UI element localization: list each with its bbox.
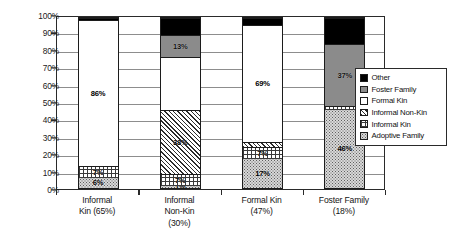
x-axis-tick-label: InformalKin (65%) [56, 195, 138, 218]
legend-item[interactable]: Informal Kin [360, 118, 443, 130]
legend-item[interactable]: Informal Non-Kin [360, 107, 443, 119]
bar-segment[interactable]: 69% [243, 25, 282, 142]
legend-item-label: Informal Kin [372, 120, 411, 129]
bar-segment-value-label: 7% [257, 150, 268, 158]
bar-segment-value-label: 1% [175, 186, 186, 188]
x-axis-tick-label-line: Informal [138, 195, 220, 206]
x-axis-tick-label: InformalNon-Kin(30%) [138, 195, 220, 229]
y-axis-tick-mark [51, 172, 56, 173]
y-axis-tick-mark [51, 68, 56, 69]
legend-item-label: Foster Family [372, 85, 417, 94]
bar-stack: 17%7%69% [242, 17, 283, 189]
bar-column[interactable]: 6%7%86% [78, 17, 119, 189]
legend-item[interactable]: Adoptive Family [360, 130, 443, 142]
bar-column[interactable]: 1%7%38%13% [160, 17, 201, 189]
bar-column[interactable]: 17%7%69% [242, 17, 283, 189]
bar-segment-value-label: 13% [173, 43, 188, 51]
bar-segment[interactable] [161, 57, 200, 110]
bar-segment[interactable] [243, 142, 282, 147]
x-axis-tick-label-line: Non-Kin [138, 206, 220, 217]
bar-segment[interactable]: 86% [79, 20, 118, 166]
bar-segment-value-label: 37% [338, 72, 353, 80]
bar-segment-value-label: 7% [175, 177, 186, 185]
legend-item[interactable]: Foster Family [360, 84, 443, 96]
bar-segment[interactable] [243, 18, 282, 25]
x-axis-tick-label: Formal Kin(47%) [221, 195, 303, 218]
bar-segment[interactable]: 1% [161, 186, 200, 188]
bar-stack: 1%7%38%13% [160, 17, 201, 189]
bar-segment[interactable]: 38% [161, 110, 200, 175]
plot-area: 6%7%86%1%7%38%13%17%7%69%46%37% [56, 16, 385, 190]
bar-stack: 6%7%86% [78, 17, 119, 189]
bar-segment-value-label: 7% [93, 169, 104, 177]
bar-segment-value-label: 6% [93, 179, 104, 187]
bar-segment[interactable]: 17% [243, 159, 282, 188]
x-axis-tick-label-line: (30%) [138, 218, 220, 229]
legend-item-label: Informal Non-Kin [372, 108, 427, 117]
bars-layer: 6%7%86%1%7%38%13%17%7%69%46%37% [57, 17, 384, 189]
x-axis-tick-label-line: (47%) [221, 206, 303, 217]
x-axis-tick-mark [385, 190, 386, 195]
bar-segment[interactable]: 7% [243, 147, 282, 159]
x-axis-tick-label-line: (18%) [303, 206, 385, 217]
x-axis-tick-label-line: Informal [56, 195, 138, 206]
bar-segment-value-label: 69% [255, 80, 270, 88]
y-axis-tick-mark [51, 120, 56, 121]
bar-segment[interactable]: 6% [79, 178, 118, 188]
legend-item[interactable]: Formal Kin [360, 95, 443, 107]
bar-segment-value-label: 46% [338, 145, 353, 153]
x-axis-tick-label-line: Foster Family [303, 195, 385, 206]
y-axis-tick-mark [51, 85, 56, 86]
legend-item[interactable]: Other [360, 72, 443, 84]
x-axis-tick-label-line: Formal Kin [221, 195, 303, 206]
bar-segment-value-label: 38% [173, 139, 188, 147]
legend-item-label: Adoptive Family [372, 131, 424, 140]
bar-segment-value-label: 86% [91, 90, 106, 98]
y-axis-tick-mark [51, 15, 56, 16]
bar-segment[interactable]: 7% [161, 174, 200, 186]
y-axis-tick-mark [51, 50, 56, 51]
bar-segment[interactable] [161, 18, 200, 35]
y-axis-tick-mark [51, 33, 56, 34]
bar-segment[interactable] [325, 18, 364, 44]
legend-swatch-icon [360, 97, 368, 105]
bar-segment-value-label: 17% [255, 170, 270, 178]
x-axis-tick-label: Foster Family(18%) [303, 195, 385, 218]
legend-swatch-icon [360, 132, 368, 140]
stacked-bar-chart: 6%7%86%1%7%38%13%17%7%69%46%37% 0%10%20%… [0, 0, 450, 249]
legend-swatch-icon [360, 74, 368, 82]
legend-swatch-icon [360, 109, 368, 117]
bar-segment[interactable] [79, 18, 118, 20]
legend-item-label: Formal Kin [372, 96, 408, 105]
bar-segment[interactable]: 7% [79, 166, 118, 178]
legend-swatch-icon [360, 120, 368, 128]
chart-legend: OtherFoster FamilyFormal KinInformal Non… [355, 68, 447, 146]
legend-swatch-icon [360, 86, 368, 94]
y-axis-tick-mark [51, 155, 56, 156]
y-axis-tick-mark [51, 137, 56, 138]
bar-segment[interactable]: 13% [161, 35, 200, 57]
x-axis-tick-label-line: Kin (65%) [56, 206, 138, 217]
y-axis-tick-mark [51, 102, 56, 103]
legend-item-label: Other [372, 73, 391, 82]
